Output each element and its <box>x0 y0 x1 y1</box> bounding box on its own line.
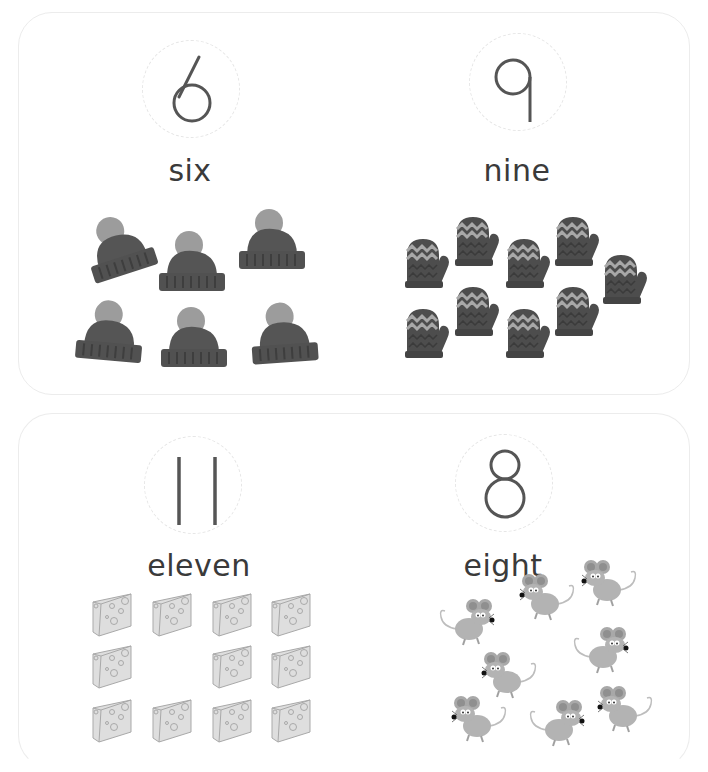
hat-icon <box>75 295 155 375</box>
hat-icon <box>237 203 317 283</box>
mitten-icon <box>551 215 603 269</box>
mitten-icon <box>451 215 503 269</box>
panel-eleven: eleven <box>19 414 349 770</box>
mitten-icon <box>551 285 603 339</box>
numeral-circle <box>469 33 567 131</box>
mouse-icon <box>571 627 629 677</box>
panel-nine: nine <box>359 13 689 396</box>
panel-eight: eight <box>359 414 689 770</box>
number-word: nine <box>417 153 617 188</box>
cheese-icon <box>151 698 195 746</box>
mitten-icon <box>502 307 554 361</box>
hat-icon <box>79 205 159 285</box>
hat-icon <box>159 301 239 381</box>
mouse-icon <box>481 652 539 702</box>
flashcard-2: eleven eight <box>18 413 690 769</box>
cheese-icon <box>270 698 314 746</box>
flashcard-1: six nine <box>18 12 690 395</box>
panel-six: six <box>19 13 349 396</box>
cheese-icon <box>211 698 255 746</box>
mouse-icon <box>451 696 509 746</box>
numeral-6-glyph <box>143 41 241 139</box>
cheese-icon <box>151 592 195 640</box>
mitten-icon <box>599 253 651 307</box>
cheese-icon <box>270 592 314 640</box>
cheese-icon <box>91 644 135 692</box>
hat-icon <box>249 296 329 376</box>
cheese-icon <box>270 644 314 692</box>
numeral-9-glyph <box>470 34 568 132</box>
mitten-icon <box>502 237 554 291</box>
mitten-icon <box>401 307 453 361</box>
mouse-icon <box>519 574 577 624</box>
cheese-icon <box>211 592 255 640</box>
numeral-circle <box>455 434 553 532</box>
cheese-icon <box>211 644 255 692</box>
mouse-icon <box>527 700 585 750</box>
numeral-8-glyph <box>456 435 554 533</box>
mouse-icon <box>581 560 639 610</box>
numeral-circle <box>142 40 240 138</box>
cheese-icon <box>91 698 135 746</box>
hat-icon <box>157 225 237 305</box>
mitten-icon <box>451 285 503 339</box>
mouse-icon <box>597 686 655 736</box>
numeral-11-glyph <box>145 437 243 535</box>
cheese-icon <box>91 592 135 640</box>
number-word: six <box>90 153 290 188</box>
mouse-icon <box>437 599 495 649</box>
mitten-icon <box>401 237 453 291</box>
numeral-circle <box>144 436 242 534</box>
number-word: eleven <box>99 548 299 583</box>
